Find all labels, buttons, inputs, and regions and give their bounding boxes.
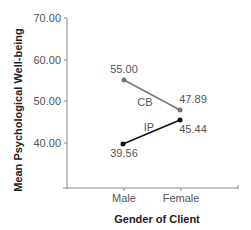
x-axis-title: Gender of Client xyxy=(114,213,200,225)
y-tick-label: 40.00 xyxy=(33,137,61,149)
ip-series-label: IP xyxy=(144,121,154,133)
cb-series-label: CB xyxy=(137,96,152,108)
ip-female-value: 45.44 xyxy=(179,123,207,135)
data-point xyxy=(178,108,183,113)
cb-male-value: 55.00 xyxy=(110,63,138,75)
data-point xyxy=(178,118,183,123)
cb-female-value: 47.89 xyxy=(179,93,207,105)
y-axis-title: Mean Psychological Well-being xyxy=(12,28,24,192)
y-tick-label: 60.00 xyxy=(33,54,61,66)
data-point xyxy=(121,142,126,147)
y-tick-label: 50.00 xyxy=(33,95,61,107)
x-tick-label-male: Male xyxy=(112,192,136,204)
x-tick-label-female: Female xyxy=(163,192,200,204)
data-point xyxy=(122,78,127,83)
ip-male-value: 39.56 xyxy=(110,147,138,159)
y-tick-label: 70.00 xyxy=(33,12,61,24)
interaction-chart: 70.00 60.00 50.00 40.00 Male Female Gend… xyxy=(0,0,251,230)
